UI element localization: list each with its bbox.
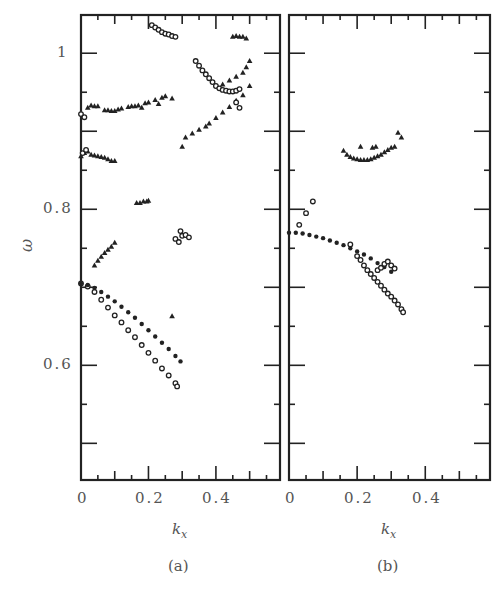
dot-marker [334, 241, 338, 245]
circle-marker [311, 199, 316, 204]
xtick-a-0: 0 [77, 489, 89, 507]
triangle-marker [227, 78, 233, 83]
circle-marker [160, 366, 165, 371]
dot-marker [328, 238, 332, 242]
triangle-marker [183, 134, 189, 139]
triangle-marker [152, 97, 158, 102]
circle-marker [392, 266, 397, 271]
circle-marker [119, 320, 124, 325]
circle-marker [401, 310, 406, 315]
dot-marker [294, 230, 298, 234]
dot-marker [92, 286, 96, 290]
dot-marker [133, 316, 137, 320]
triangle-marker [341, 148, 347, 153]
triangle-marker [243, 64, 249, 69]
dot-marker [119, 305, 123, 309]
circle-marker [304, 211, 309, 216]
circle-marker [193, 59, 198, 64]
circle-marker [92, 290, 97, 295]
dot-marker [160, 340, 164, 344]
triangle-marker [95, 103, 101, 108]
triangle-marker [395, 130, 401, 135]
dot-marker [314, 234, 318, 238]
dot-marker [99, 290, 103, 294]
circle-marker [82, 115, 87, 120]
ytick-1: 1 [57, 43, 69, 61]
dot-marker [106, 294, 110, 298]
ytick-0.6: 0.6 [43, 355, 73, 373]
circle-marker [146, 351, 151, 356]
triangle-marker [213, 115, 219, 120]
circle-marker [396, 302, 401, 307]
circle-marker [187, 235, 192, 240]
circle-marker [175, 384, 180, 389]
x-axis-label-a: kx [172, 520, 187, 541]
dot-marker [321, 236, 325, 240]
triangle-marker [220, 110, 226, 115]
circle-marker [153, 358, 158, 363]
dot-marker [140, 322, 144, 326]
circle-marker [133, 335, 138, 340]
triangle-marker [240, 70, 246, 75]
circle-marker [106, 305, 111, 310]
dot-marker [79, 281, 83, 285]
circle-marker [173, 35, 178, 40]
circle-marker [178, 229, 183, 234]
circle-marker [126, 328, 131, 333]
dot-marker [300, 231, 304, 235]
xtick-a-0.4: 0.4 [202, 489, 232, 507]
circle-marker [177, 240, 182, 245]
figure: ω 1 0.8 0.6 0 0.2 0.4 0 0.2 0.4 kx kx (a… [0, 0, 503, 595]
xtick-b-0.4: 0.4 [412, 489, 442, 507]
panel-caption-b: (b) [377, 557, 398, 575]
panel-caption-a: (a) [168, 557, 189, 575]
circle-marker [112, 313, 117, 318]
triangle-marker [92, 262, 98, 267]
panel-frame [289, 15, 490, 480]
dot-marker [178, 359, 182, 363]
ytick-0.8: 0.8 [43, 199, 73, 217]
dot-marker [355, 249, 359, 253]
triangle-marker [190, 131, 196, 136]
circle-marker [348, 242, 353, 247]
circle-marker [166, 373, 171, 378]
triangle-marker [179, 144, 185, 149]
triangle-marker [373, 144, 379, 149]
triangle-marker [112, 158, 118, 163]
triangle-marker [392, 144, 398, 149]
xtick-b-0.2: 0.2 [344, 489, 374, 507]
dot-marker [375, 261, 379, 265]
triangle-marker [163, 93, 169, 98]
triangle-marker [399, 134, 405, 139]
circle-marker [237, 87, 242, 92]
dot-marker [307, 233, 311, 237]
dot-marker [341, 243, 345, 247]
triangle-marker [240, 92, 246, 97]
triangle-marker [136, 103, 142, 108]
circle-marker [197, 63, 202, 68]
xtick-b-0: 0 [285, 489, 297, 507]
x-axis-label-b: kx [381, 520, 396, 541]
triangle-marker [358, 144, 364, 149]
dot-marker [173, 354, 177, 358]
triangle-marker [119, 106, 125, 111]
dot-marker [166, 347, 170, 351]
triangle-marker [146, 99, 152, 104]
triangle-marker [169, 95, 175, 100]
circle-marker [297, 223, 302, 228]
dot-marker [126, 310, 130, 314]
dot-marker [113, 299, 117, 303]
circle-marker [237, 106, 242, 111]
dot-marker [369, 256, 373, 260]
dot-marker [362, 252, 366, 256]
triangle-marker [220, 81, 226, 86]
dot-marker [287, 230, 291, 234]
triangle-marker [233, 74, 239, 79]
circle-marker [234, 100, 239, 105]
circle-marker [358, 258, 363, 263]
circle-marker [99, 297, 104, 302]
dot-marker [86, 283, 90, 287]
circle-marker [362, 263, 367, 268]
triangle-marker [247, 58, 253, 63]
triangle-marker [227, 104, 233, 109]
